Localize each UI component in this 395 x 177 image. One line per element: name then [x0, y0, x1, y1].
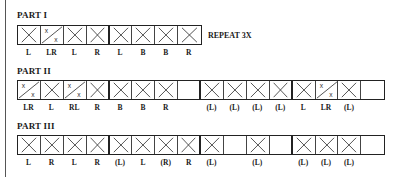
- cell-x: [87, 26, 110, 44]
- cell-split: xx: [18, 81, 41, 99]
- cell-x: [178, 136, 201, 154]
- cell-label: LR: [315, 103, 338, 112]
- cell-x: [132, 136, 155, 154]
- cell-x: [64, 136, 87, 154]
- x-mark-icon: [41, 81, 63, 99]
- cell-x: [155, 136, 178, 154]
- x-mark-icon: [293, 136, 315, 154]
- x-mark-icon: [132, 136, 154, 154]
- x-mark-icon: [110, 136, 132, 154]
- cell-label: (L): [269, 103, 292, 112]
- cell-x: [41, 81, 64, 99]
- cell-x: [338, 81, 361, 99]
- cell-split: xx: [316, 81, 339, 99]
- cell-x: [87, 136, 110, 154]
- part-2-title: PART II: [17, 66, 51, 76]
- cell-x: [110, 26, 133, 44]
- cell-x: [224, 81, 247, 99]
- cell-x: [110, 136, 133, 154]
- part-3-title: PART III: [17, 121, 55, 131]
- x-mark-icon: [316, 136, 338, 154]
- x-mark-icon: [247, 81, 269, 99]
- cell-split: xx: [64, 81, 87, 99]
- cell-x: [110, 81, 133, 99]
- part-1-title: PART I: [17, 10, 47, 20]
- part-3-labels: LRLR(L)L(R)R(L)(L)(L)(L)(L): [17, 158, 383, 167]
- cell-x: [201, 136, 224, 154]
- x-mark-icon: [155, 26, 177, 44]
- split-x-mark-icon: xx: [64, 81, 86, 99]
- x-mark-icon: [178, 26, 201, 44]
- cell-label: (L): [315, 158, 338, 167]
- cell-x: [201, 81, 224, 99]
- cell-label: (L): [200, 103, 223, 112]
- cell-label: LR: [17, 103, 40, 112]
- svg-text:x: x: [319, 82, 323, 89]
- svg-text:x: x: [68, 82, 72, 89]
- x-mark-icon: [155, 81, 177, 99]
- x-mark-icon: [293, 81, 315, 99]
- cell-x: [132, 81, 155, 99]
- cell-label: LR: [40, 48, 63, 57]
- x-mark-icon: [224, 81, 246, 99]
- x-mark-icon: [132, 26, 154, 44]
- split-x-mark-icon: xx: [18, 81, 40, 99]
- cell-label: B: [154, 48, 177, 57]
- cell-empty: [361, 81, 384, 99]
- cell-split: xx: [41, 26, 64, 44]
- part-1-labels: LLRLRLBBR: [17, 48, 200, 57]
- cell-x: [293, 136, 316, 154]
- cell-label: L: [131, 158, 154, 167]
- cell-label: [360, 103, 383, 112]
- cell-label: R: [177, 158, 200, 167]
- cell-label: B: [109, 103, 132, 112]
- split-x-mark-icon: xx: [41, 26, 63, 44]
- cell-x: [155, 26, 178, 44]
- cell-label: R: [86, 103, 109, 112]
- x-mark-icon: [110, 81, 132, 99]
- x-mark-icon: [270, 81, 291, 99]
- split-x-mark-icon: xx: [316, 81, 338, 99]
- cell-empty: [270, 136, 293, 154]
- cell-label: (L): [337, 103, 360, 112]
- cell-label: L: [17, 48, 40, 57]
- cell-label: L: [292, 103, 315, 112]
- cell-empty: [178, 81, 201, 99]
- cell-x: [18, 26, 41, 44]
- cell-x: [338, 136, 361, 154]
- cell-label: (L): [246, 103, 269, 112]
- x-mark-icon: [64, 136, 86, 154]
- part-3-grid: [17, 135, 385, 155]
- cell-label: B: [131, 103, 154, 112]
- cell-x: [178, 26, 201, 44]
- cell-label: L: [40, 103, 63, 112]
- cell-x: [247, 81, 270, 99]
- part-1-grid: xx: [17, 25, 202, 45]
- cell-label: (L): [246, 158, 269, 167]
- cell-label: (L): [292, 158, 315, 167]
- cell-empty: [361, 136, 384, 154]
- cell-label: B: [131, 48, 154, 57]
- cell-x: [132, 26, 155, 44]
- x-mark-icon: [87, 136, 108, 154]
- cell-label: L: [63, 48, 86, 57]
- cell-label: R: [86, 48, 109, 57]
- cell-empty: [224, 136, 247, 154]
- x-mark-icon: [18, 136, 40, 154]
- svg-text:x: x: [329, 91, 333, 98]
- cell-x: [316, 136, 339, 154]
- x-mark-icon: [87, 26, 108, 44]
- cell-label: RL: [63, 103, 86, 112]
- cell-label: (R): [154, 158, 177, 167]
- cell-label: R: [86, 158, 109, 167]
- svg-text:x: x: [22, 82, 26, 89]
- cell-label: [360, 158, 383, 167]
- cell-label: [269, 158, 292, 167]
- x-mark-icon: [155, 136, 177, 154]
- cell-label: L: [109, 48, 132, 57]
- x-mark-icon: [87, 81, 108, 99]
- cell-label: [177, 103, 200, 112]
- svg-text:x: x: [77, 91, 81, 98]
- x-mark-icon: [201, 136, 223, 154]
- cell-label: [223, 158, 246, 167]
